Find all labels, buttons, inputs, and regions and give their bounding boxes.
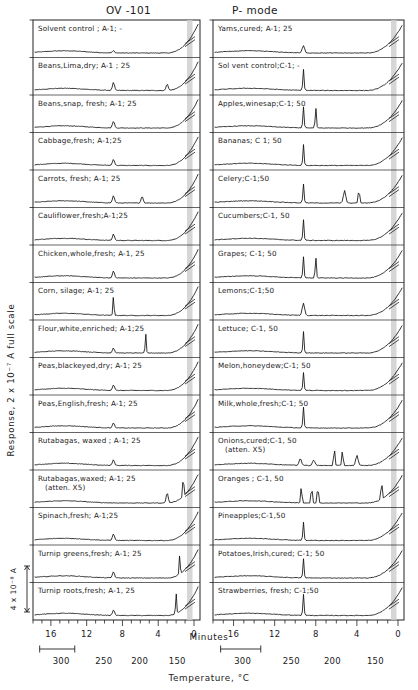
trace-label: Oranges ; C-1, 50 (218, 474, 284, 483)
temperature-tick-label: 300 (53, 656, 70, 666)
trace-label: Strawberries, fresh; C-1;50 (218, 586, 319, 595)
temperature-tick-label: 200 (324, 656, 341, 666)
trace-label-secondary: (atten. X5) (225, 445, 265, 454)
trace-label: Corn, silage; A-1; 25 (38, 286, 114, 295)
temperature-scale-bar (40, 646, 75, 653)
trace-label: Apples,winesap;C-1; 50 (218, 99, 306, 108)
minutes-tick-label: 16 (45, 629, 56, 639)
chromatogram-figure: OV -101P- modeSolvent control ; A-1; -Be… (0, 0, 418, 690)
figure-svg: OV -101P- modeSolvent control ; A-1; -Be… (0, 0, 418, 690)
trace-label: Peas,blackeyed,dry; A-1; 25 (38, 361, 142, 370)
trace-label: Potatoes,Irish,cured; C-1; 50 (218, 549, 325, 558)
trace-label: Grapes; C-1; 50 (218, 249, 277, 258)
trace-label: Spinach,fresh; A-1;25 (38, 511, 118, 520)
trace-label: Beans,snap, fresh; A-1; 25 (38, 99, 137, 108)
minutes-tick-label: 4 (354, 629, 360, 639)
temperature-tick-label: 300 (234, 656, 251, 666)
trace-label: Carrots, fresh; A-1; 25 (38, 174, 121, 183)
y-scale-bar-label: 4 x 10⁻⁸ A (9, 567, 18, 610)
trace-label: Turnip roots,fresh; A-1, 25 (37, 586, 135, 595)
temperature-tick-label: 150 (169, 656, 186, 666)
temperature-tick-label: 200 (131, 656, 148, 666)
trace-label: Lemons;C-1;50 (218, 286, 274, 295)
trace-label: Chicken,whole,fresh; A-1, 25 (38, 249, 145, 258)
trace-label: Beans,Lima,dry; A-1 ; 25 (38, 61, 130, 70)
minutes-tick-label: 0 (395, 629, 401, 639)
minutes-tick-label: 8 (313, 629, 319, 639)
panel-header-ov101: OV -101 (106, 4, 151, 16)
trace-label: Peas,English,fresh; A-1; 25 (38, 399, 138, 408)
panel-header-pmode: P- mode (232, 4, 278, 16)
trace-label: Sol vent control;C-1; - (218, 61, 300, 70)
temperature-axis-title: Temperature, °C (168, 673, 250, 683)
minutes-tick-label: 12 (269, 629, 280, 639)
trace-label-secondary: (atten. X5) (45, 483, 85, 492)
trace-label: Onions,cured;C-1, 50 (218, 436, 297, 445)
trace-label: Flour,white,enriched; A-1;25 (38, 324, 144, 333)
temperature-tick-label: 150 (367, 656, 384, 666)
trace-label: Melon,honeydew;C-1; 50 (218, 361, 311, 370)
y-axis-title: Response, 2 x 10⁻⁷ A full scale (6, 304, 16, 457)
trace-label: Turnip greens,fresh; A-1; 25 (37, 549, 142, 558)
trace-label: Solvent control ; A-1; - (38, 24, 122, 33)
trace-label: Rutabagas,waxed; A-1; 25 (38, 474, 136, 483)
trace-label: Cauliflower,fresh;A-1;25 (38, 211, 128, 220)
trace-label: Cucumbers;C-1, 50 (218, 211, 290, 220)
trace-label: Cabbage,fresh; A-1;25 (38, 136, 122, 145)
minutes-tick-label: 16 (228, 629, 239, 639)
minutes-axis-title: Minutes (190, 632, 229, 642)
trace-label: Rutabagas, waxed ; A-1; 25 (38, 436, 141, 445)
trace-label: Lettuce; C-1, 50 (218, 324, 278, 333)
trace-label: Pineapples;C-1,50 (218, 511, 286, 520)
trace-label: Celery;C-1;50 (218, 174, 269, 183)
y-scale-bar (24, 566, 30, 612)
temperature-tick-label: 250 (283, 656, 300, 666)
temperature-scale-bar (221, 646, 261, 653)
trace-label: Milk,whole,fresh;C-1; 50 (218, 399, 309, 408)
trace-label: Bananas; C 1; 50 (218, 136, 282, 145)
minutes-tick-label: 4 (155, 629, 161, 639)
minutes-tick-label: 12 (81, 629, 92, 639)
temperature-tick-label: 250 (95, 656, 112, 666)
trace-label: Yams,cured; A-1; 25 (217, 24, 292, 33)
minutes-tick-label: 8 (120, 629, 126, 639)
